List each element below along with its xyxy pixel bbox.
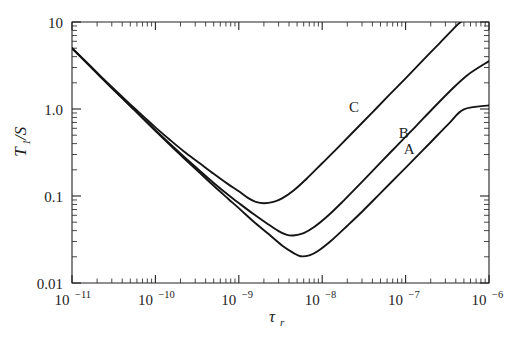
x-tick-label: 10−10 — [138, 289, 175, 308]
x-tick-label-exponent: −6 — [492, 289, 503, 300]
x-tick-label-mantissa: 10 — [55, 292, 70, 308]
y-tick-label: 0.01 — [37, 276, 63, 292]
curve-labels-group: ABC — [349, 99, 415, 158]
chart-svg: 10−1110−1010−910−810−710−6 101.00.10.01 … — [0, 0, 517, 341]
x-axis-tick-labels: 10−1110−1010−910−810−710−6 — [55, 289, 504, 308]
y-axis-title: T1/S — [11, 126, 32, 156]
y-axis-tick-labels: 101.00.10.01 — [37, 15, 63, 292]
x-tick-label: 10−7 — [388, 289, 420, 308]
data-curve-c — [72, 22, 461, 203]
data-series-group — [72, 22, 489, 256]
data-curve-b — [72, 48, 489, 235]
x-axis-title-subscript: r — [280, 316, 285, 328]
curve-label-b: B — [399, 125, 409, 141]
x-tick-label-mantissa: 10 — [472, 292, 487, 308]
y-tick-label: 10 — [48, 15, 63, 31]
y-axis-title-rest: /S — [11, 126, 30, 141]
y-axis-title-rotated: T1/S — [11, 126, 32, 156]
curve-label-a: A — [404, 141, 415, 157]
x-tick-label-exponent: −8 — [325, 289, 336, 300]
x-tick-label-exponent: −9 — [242, 289, 253, 300]
x-tick-label-exponent: −7 — [409, 289, 420, 300]
y-tick-label: 0.1 — [44, 189, 63, 205]
x-tick-label: 10−8 — [305, 289, 337, 308]
x-tick-label-mantissa: 10 — [305, 292, 320, 308]
curve-label-c: C — [349, 99, 359, 115]
x-tick-label: 10−9 — [221, 289, 253, 308]
chart-figure: 10−1110−1010−910−810−710−6 101.00.10.01 … — [0, 0, 517, 341]
x-axis-title-base: τ — [269, 307, 276, 326]
x-tick-label-mantissa: 10 — [138, 292, 153, 308]
x-tick-label-exponent: −11 — [75, 289, 91, 300]
y-tick-label: 1.0 — [44, 102, 63, 118]
y-axis-title-base: T — [11, 146, 30, 157]
x-tick-label-mantissa: 10 — [221, 292, 236, 308]
data-curve-a — [72, 48, 489, 256]
x-tick-label-mantissa: 10 — [388, 292, 403, 308]
x-axis-title: τr — [269, 307, 285, 328]
x-tick-label: 10−6 — [472, 289, 504, 308]
x-tick-label-exponent: −10 — [158, 289, 174, 300]
